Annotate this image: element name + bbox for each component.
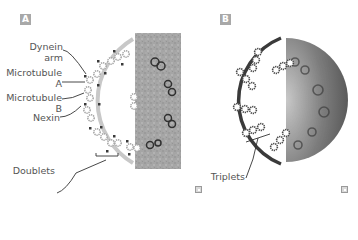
label-dynein-arm: Dynein arm: [30, 41, 63, 63]
label-doublets: Doublets: [13, 165, 55, 176]
label-triplets: Triplets: [211, 171, 245, 182]
panel-a-micrograph: [135, 33, 181, 169]
label-microtubule-a: Microtubule A: [6, 67, 62, 89]
zoom-icon[interactable]: [341, 186, 348, 193]
panel-b-diagram: [234, 38, 348, 178]
panel-b-micrograph: [286, 38, 348, 162]
label-nexin: Nexin: [33, 112, 60, 123]
triplets-b: [234, 49, 294, 151]
panel-a-diagram: [57, 33, 181, 193]
leader-lines-a: [57, 50, 118, 193]
zoom-icon[interactable]: [195, 186, 202, 193]
doublets-a: [84, 51, 140, 151]
label-microtubule-b: Microtubule B: [6, 92, 62, 114]
